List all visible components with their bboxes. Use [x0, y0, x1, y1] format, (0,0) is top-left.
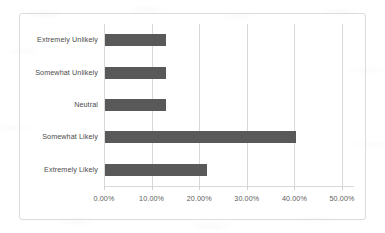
value-tick-label: 20.00%: [177, 194, 221, 203]
bar: [105, 67, 166, 79]
tickmark: [342, 186, 343, 190]
tickmark: [247, 186, 248, 190]
tickmark: [104, 186, 105, 190]
value-tick-label: 50.00%: [320, 194, 364, 203]
tickmark: [152, 186, 153, 190]
gridline-5000: [342, 24, 343, 186]
category-label: Somewhat Likely: [42, 132, 98, 141]
plot-area: Extremely UnlikelySomewhat UnlikelyNeutr…: [20, 14, 365, 219]
bar: [105, 34, 166, 46]
gridline-2000: [199, 24, 200, 186]
category-label: Extremely Likely: [44, 165, 98, 174]
tickmark: [199, 186, 200, 190]
value-tick-label: 40.00%: [272, 194, 316, 203]
gridline-4000: [294, 24, 295, 186]
gridline-3000: [247, 24, 248, 186]
value-tick-label: 10.00%: [130, 194, 174, 203]
value-tick-label: 30.00%: [225, 194, 269, 203]
category-label: Somewhat Unlikely: [35, 68, 98, 77]
bar-chart: Extremely UnlikelySomewhat UnlikelyNeutr…: [19, 13, 366, 220]
tickmark: [294, 186, 295, 190]
bar: [105, 131, 296, 143]
bar: [105, 164, 207, 176]
category-label: Extremely Unlikely: [37, 35, 98, 44]
category-label: Neutral: [74, 100, 98, 109]
value-tick-label: 0.00%: [82, 194, 126, 203]
bar: [105, 99, 166, 111]
value-axis-line: [104, 186, 354, 187]
